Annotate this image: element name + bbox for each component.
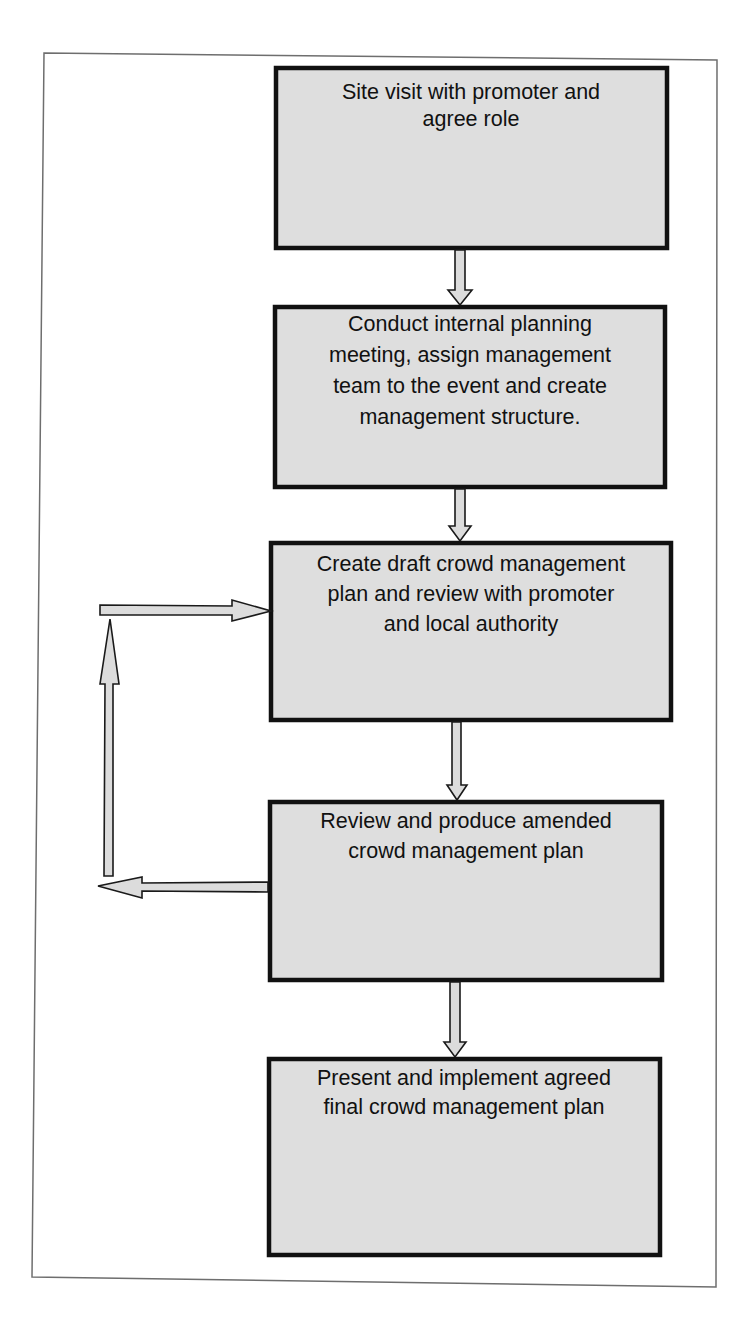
step-1-box: Site visit with promoter and agree role bbox=[276, 68, 667, 248]
step-4-box: Review and produce amended crowd managem… bbox=[270, 802, 662, 980]
arrow-down-icon bbox=[444, 982, 466, 1057]
step-1-line-1: Site visit with promoter and bbox=[342, 80, 600, 104]
step-5-line-1: Present and implement agreed bbox=[317, 1066, 611, 1090]
step-3-box: Create draft crowd management plan and r… bbox=[271, 543, 671, 720]
arrow-down-icon bbox=[447, 722, 467, 800]
arrow-right-icon bbox=[100, 600, 271, 621]
step-4-line-2: crowd management plan bbox=[348, 839, 583, 863]
step-5-box: Present and implement agreed final crowd… bbox=[269, 1059, 660, 1255]
arrow-left-icon bbox=[98, 877, 268, 898]
step-3-line-1: Create draft crowd management bbox=[317, 552, 625, 576]
arrow-up-icon bbox=[100, 619, 119, 876]
arrow-down-icon bbox=[448, 250, 472, 305]
step-2-box: Conduct internal planning meeting, assig… bbox=[275, 307, 665, 487]
step-2-line-4: management structure. bbox=[359, 405, 580, 429]
step-2-line-3: team to the event and create bbox=[333, 374, 607, 398]
arrow-down-icon bbox=[449, 489, 471, 541]
step-4-line-1: Review and produce amended bbox=[320, 809, 612, 833]
step-2-line-2: meeting, assign management bbox=[329, 343, 611, 367]
step-5-line-2: final crowd management plan bbox=[324, 1095, 605, 1119]
step-3-line-2: plan and review with promoter bbox=[328, 582, 615, 606]
step-2-line-1: Conduct internal planning bbox=[348, 312, 592, 336]
step-1-line-2: agree role bbox=[423, 107, 520, 131]
flowchart-diagram: Site visit with promoter and agree role … bbox=[0, 0, 751, 1324]
step-3-line-3: and local authority bbox=[384, 612, 559, 636]
